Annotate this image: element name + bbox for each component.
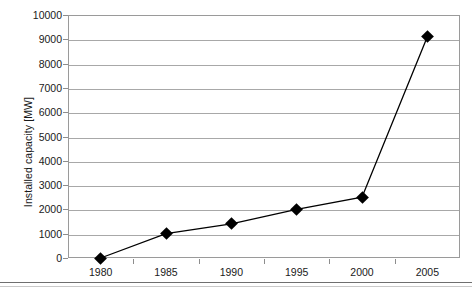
- x-tick-mark: [329, 259, 330, 264]
- x-tick-mark: [264, 259, 265, 264]
- y-tick-label: 0: [0, 252, 62, 264]
- data-point-marker: [421, 30, 434, 43]
- y-tick-mark: [63, 258, 68, 259]
- x-tick-label: 1980: [71, 266, 131, 278]
- y-tick-label: 8000: [0, 58, 62, 70]
- x-tick-mark: [395, 259, 396, 264]
- x-tick-mark: [199, 259, 200, 264]
- y-tick-label: 10000: [0, 9, 62, 21]
- y-tick-label: 7000: [0, 82, 62, 94]
- y-tick-label: 1000: [0, 228, 62, 240]
- footer-divider-secondary: [0, 286, 472, 287]
- x-tick-mark: [133, 259, 134, 264]
- data-markers: [68, 15, 460, 258]
- x-tick-label: 1990: [201, 266, 261, 278]
- chart-figure: Installed capacity [MW] 0100020003000400…: [0, 0, 472, 291]
- footer-divider: [0, 282, 472, 283]
- y-tick-label: 6000: [0, 106, 62, 118]
- data-point-marker: [356, 191, 369, 204]
- y-tick-label: 2000: [0, 203, 62, 215]
- y-tick-label: 3000: [0, 179, 62, 191]
- data-point-marker: [225, 218, 238, 231]
- y-tick-label: 4000: [0, 155, 62, 167]
- x-tick-label: 2000: [332, 266, 392, 278]
- x-tick-label: 1995: [267, 266, 327, 278]
- x-tick-label: 2005: [397, 266, 457, 278]
- data-point-marker: [160, 227, 173, 240]
- y-tick-label: 5000: [0, 131, 62, 143]
- data-point-marker: [290, 203, 303, 216]
- x-tick-label: 1985: [136, 266, 196, 278]
- y-tick-label: 9000: [0, 33, 62, 45]
